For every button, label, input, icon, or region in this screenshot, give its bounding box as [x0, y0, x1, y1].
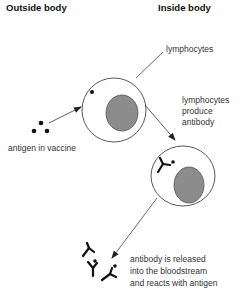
- lymphocyte-cell-1: [82, 78, 146, 142]
- label-lymphocytes-produce-antibody-3: antibody: [182, 117, 214, 128]
- lymphocyte-cell-2: [151, 146, 215, 206]
- antigen-dots-icon: [32, 121, 50, 134]
- label-lymphocytes: lymphocytes: [166, 44, 213, 55]
- lymphocytes-pointer-line: [136, 52, 163, 78]
- arrow-lymphocyte-to-producing-cell: [145, 105, 175, 140]
- arrow-producing-cell-to-antibodies: [112, 198, 157, 258]
- label-antibody-released-1: antibody is released: [130, 254, 206, 265]
- label-lymphocytes-produce-antibody-1: lymphocytes: [182, 95, 229, 106]
- label-antigen-in-vaccine: antigen in vaccine: [8, 143, 76, 154]
- label-antibody-released-2: into the bloodstream: [130, 266, 207, 277]
- released-antibodies-icon: [83, 243, 116, 280]
- label-lymphocytes-produce-antibody-2: produce: [182, 106, 213, 117]
- label-antibody-released-3: and reacts with antigen: [130, 278, 217, 289]
- arrow-antigen-to-lymphocyte: [49, 107, 81, 123]
